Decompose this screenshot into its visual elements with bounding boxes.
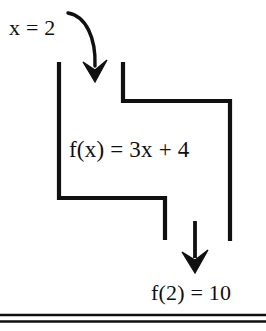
diagram-page: x = 2 f(x) = 3x + 4 f(2) = 10	[0, 0, 266, 331]
function-rule-label: f(x) = 3x + 4	[69, 137, 190, 163]
output-value-label: f(2) = 10	[151, 280, 231, 306]
input-curved-arrow-shaft	[68, 13, 95, 66]
input-value-label: x = 2	[9, 15, 55, 41]
